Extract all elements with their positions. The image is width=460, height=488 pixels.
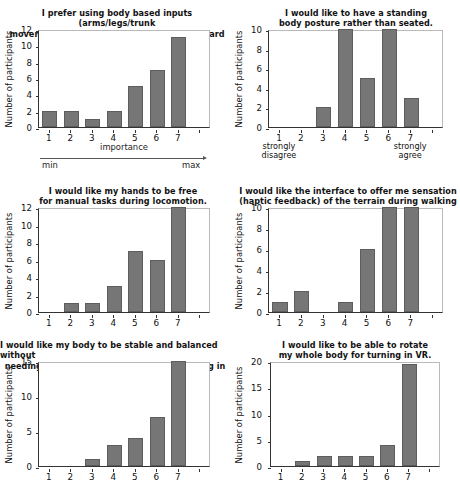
x-tick-mark bbox=[178, 469, 179, 472]
x-tick-mark bbox=[135, 130, 136, 133]
panel-5-y-ticks: 051015 bbox=[17, 362, 34, 467]
panel-2-bars bbox=[269, 31, 442, 127]
y-tick-mark bbox=[266, 209, 269, 210]
bar bbox=[359, 456, 374, 467]
panel-3-bars bbox=[39, 209, 209, 312]
x-tick-mark bbox=[366, 315, 367, 318]
anchor-line: agree bbox=[394, 151, 427, 160]
bar bbox=[128, 438, 143, 466]
panel-3-y-axis-label: Number of participants bbox=[2, 208, 16, 313]
y-tick-label: 8 bbox=[27, 238, 32, 248]
panel-1-scale-arrow-head-icon bbox=[203, 156, 207, 160]
panel-1-y-ticks: 024681012 bbox=[17, 30, 34, 128]
y-tick-mark bbox=[36, 244, 39, 245]
x-tick-mark bbox=[410, 130, 411, 133]
y-tick-mark bbox=[268, 389, 271, 390]
x-tick-mark bbox=[70, 469, 71, 472]
panel-1-scale-arrow-line bbox=[40, 158, 204, 159]
y-tick-label: 0 bbox=[27, 123, 32, 133]
x-tick-mark bbox=[92, 315, 93, 318]
x-tick-mark bbox=[432, 315, 433, 318]
bar bbox=[402, 364, 417, 466]
x-tick-mark bbox=[387, 469, 388, 472]
y-tick-label: 4 bbox=[27, 90, 32, 100]
bar bbox=[64, 303, 79, 312]
y-tick-label: 8 bbox=[257, 224, 262, 234]
panel-1-bars bbox=[39, 31, 209, 127]
panel-5-bars bbox=[39, 363, 209, 466]
panel-2-title: I would like to have a standing body pos… bbox=[256, 8, 456, 29]
bar bbox=[150, 417, 165, 466]
y-tick-mark bbox=[36, 96, 39, 97]
y-tick-mark bbox=[36, 47, 39, 48]
x-tick-mark bbox=[432, 130, 433, 133]
x-tick-label: 6 bbox=[384, 472, 390, 482]
x-tick-label: 6 bbox=[386, 318, 392, 328]
bar bbox=[294, 291, 309, 312]
y-tick-label: 10 bbox=[21, 392, 32, 402]
y-tick-label: 2 bbox=[257, 103, 262, 113]
x-tick-mark bbox=[92, 469, 93, 472]
x-tick-mark bbox=[199, 130, 200, 133]
y-tick-label: 0 bbox=[257, 308, 262, 318]
x-tick-label: 2 bbox=[298, 318, 304, 328]
x-tick-mark bbox=[366, 469, 367, 472]
chart-panel-4: I would like the interface to offer me s… bbox=[230, 186, 460, 338]
y-tick-label: 20 bbox=[251, 357, 262, 367]
x-tick-label: 1 bbox=[276, 318, 282, 328]
panel-1-x-axis-label: importance bbox=[38, 142, 210, 152]
x-tick-mark bbox=[323, 469, 324, 472]
panel-2-y-axis-label: Number of participants bbox=[232, 30, 246, 128]
bar bbox=[338, 456, 353, 467]
bar bbox=[150, 260, 165, 313]
x-tick-mark bbox=[323, 315, 324, 318]
x-tick-label: 7 bbox=[405, 472, 411, 482]
bar bbox=[360, 249, 375, 312]
x-tick-mark bbox=[49, 315, 50, 318]
x-tick-mark bbox=[281, 469, 282, 472]
x-tick-mark bbox=[344, 469, 345, 472]
x-tick-label: 3 bbox=[89, 318, 95, 328]
x-tick-label: 3 bbox=[320, 133, 326, 143]
panel-6-bars bbox=[271, 363, 439, 466]
panel-4-title-line-2: (haptic feedback) of the terrain during … bbox=[236, 196, 460, 206]
x-tick-label: 6 bbox=[386, 133, 392, 143]
panel-4-bars bbox=[269, 209, 442, 312]
chart-panel-5: I would like my body to be stable and ba… bbox=[0, 340, 230, 488]
x-tick-mark bbox=[156, 130, 157, 133]
y-tick-label: 0 bbox=[257, 123, 262, 133]
x-tick-label: 3 bbox=[320, 472, 326, 482]
x-tick-mark bbox=[388, 130, 389, 133]
chart-panel-3: I would like my hands to be free for man… bbox=[0, 186, 230, 338]
x-tick-label: 3 bbox=[89, 472, 95, 482]
x-tick-mark bbox=[279, 315, 280, 318]
y-tick-mark bbox=[36, 113, 39, 114]
y-tick-label: 12 bbox=[21, 203, 32, 213]
panel-3-title: I would like my hands to be free for man… bbox=[18, 186, 228, 207]
bar bbox=[42, 111, 57, 127]
x-tick-label: 5 bbox=[132, 472, 138, 482]
x-tick-label: 5 bbox=[364, 318, 370, 328]
y-tick-mark bbox=[266, 109, 269, 110]
panel-5-axes bbox=[38, 362, 210, 467]
x-tick-label: 2 bbox=[67, 318, 73, 328]
y-tick-label: 4 bbox=[257, 84, 262, 94]
y-tick-label: 10 bbox=[21, 41, 32, 51]
panel-6-plot: Number of participants 05101520 1234567 bbox=[230, 362, 460, 487]
x-tick-mark bbox=[156, 315, 157, 318]
bar bbox=[295, 461, 310, 466]
panel-1-title-line-1: I prefer using body based inputs (arms/l… bbox=[6, 8, 228, 29]
panel-6-title-line-2: my whole body for turning in VR. bbox=[252, 350, 458, 360]
x-tick-mark bbox=[408, 469, 409, 472]
y-tick-label: 5 bbox=[27, 427, 32, 437]
bar bbox=[382, 29, 397, 127]
x-tick-label: 4 bbox=[110, 318, 116, 328]
panel-6-y-axis-label: Number of participants bbox=[232, 362, 246, 467]
panel-6-title: I would like to be able to rotate my who… bbox=[252, 340, 458, 361]
x-tick-label: 2 bbox=[299, 472, 305, 482]
x-tick-label: 1 bbox=[46, 472, 52, 482]
panel-2-title-line-2: body posture rather than seated. bbox=[256, 18, 456, 28]
bar bbox=[128, 251, 143, 312]
y-tick-mark bbox=[36, 363, 39, 364]
x-tick-label: 5 bbox=[364, 133, 370, 143]
